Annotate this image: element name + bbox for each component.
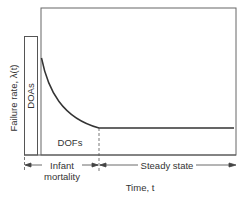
- mortality-label: mortality: [44, 171, 80, 182]
- doa-label: DOAs: [25, 83, 36, 109]
- dof-label: DOFs: [58, 137, 83, 148]
- failure-rate-diagram: Failure rate, λ(t) DOAs DOFs Infant mort…: [0, 0, 252, 204]
- failure-rate-curve: [42, 58, 235, 128]
- y-axis-label: Failure rate, λ(t): [8, 64, 19, 131]
- x-axis-label: Time, t: [126, 182, 155, 193]
- plot-frame: [41, 8, 236, 155]
- steady-state-label: Steady state: [141, 160, 194, 171]
- infant-label: Infant: [50, 160, 74, 171]
